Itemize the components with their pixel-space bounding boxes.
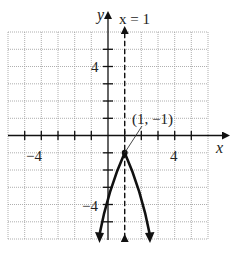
y-tick-label-neg4: −4 xyxy=(82,198,98,214)
vertex-leader-line xyxy=(125,126,142,153)
y-tick-label-pos4: 4 xyxy=(91,59,99,75)
parabola-graph: y x x = 1 (1, −1) −4 4 4 −4 xyxy=(0,0,240,254)
parabola-right-arrow-icon xyxy=(145,232,155,243)
axes xyxy=(8,15,226,240)
vertex-label: (1, −1) xyxy=(132,111,173,128)
x-tick-label-pos4: 4 xyxy=(170,148,178,164)
x-tick-label-neg4: −4 xyxy=(26,148,42,164)
symmetry-label: x = 1 xyxy=(119,11,150,27)
parabola-left-arrow-icon xyxy=(95,232,104,243)
y-axis-label: y xyxy=(95,6,105,24)
x-axis-label: x xyxy=(215,139,223,156)
